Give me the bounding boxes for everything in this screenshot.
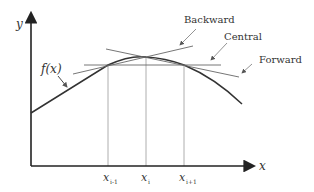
svg-text:x: x [103,171,110,184]
tick-label-xi: x i [141,171,150,185]
diagram-canvas: y x f(x) Backward Central Forward x i-1 … [0,0,314,192]
backward-line [73,46,193,74]
annotation-central: Central [224,31,262,42]
svg-text:x: x [179,171,186,184]
svg-text:i-1: i-1 [110,178,118,185]
central-arrow [211,43,227,60]
svg-text:i+1: i+1 [186,178,197,185]
svg-text:i: i [148,178,150,185]
forward-arrow [242,64,252,73]
fx-arrow [58,76,67,87]
annotation-backward: Backward [184,14,235,25]
tick-label-xi-1: x i-1 [103,171,118,185]
x-axis-label: x [259,159,266,173]
function-label: f(x) [40,62,62,76]
tick-label-xi+1: x i+1 [179,171,197,185]
forward-line [106,49,239,77]
y-axis-label: y [15,17,23,31]
svg-text:x: x [141,171,148,184]
guide-lines [108,57,184,166]
backward-arrow [180,29,196,45]
annotation-forward: Forward [259,54,302,65]
